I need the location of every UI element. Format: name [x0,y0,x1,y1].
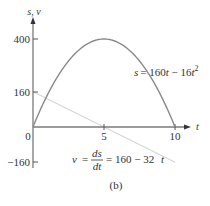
y-axis-label: s, v [27,6,41,17]
y-axis-arrow-icon [31,17,36,24]
svg-text:dt: dt [93,160,103,172]
position-equation: s= 160t − 16t2 [134,64,199,78]
y-tick-label-400: 400 [14,33,31,45]
x-tick-label-5: 5 [101,130,107,142]
svg-text:=: = [82,153,88,165]
x-axis-label: t [196,121,199,132]
y-tick-label-neg160: −160 [7,156,30,168]
svg-text:= 160 − 32: = 160 − 32 [106,153,154,165]
position-curve [33,39,175,127]
chart-figure: 400 160 −160 0 5 10 s, v t s= 160t − 16t… [0,0,210,206]
svg-text:ds: ds [92,147,102,159]
x-tick-label-0: 0 [25,130,31,142]
y-tick-label-160: 160 [14,86,31,98]
svg-text:t: t [161,153,165,165]
x-axis-arrow-icon [184,125,191,130]
svg-text:v: v [72,153,77,165]
figure-caption: (b) [110,179,123,192]
x-tick-label-10: 10 [170,130,182,142]
